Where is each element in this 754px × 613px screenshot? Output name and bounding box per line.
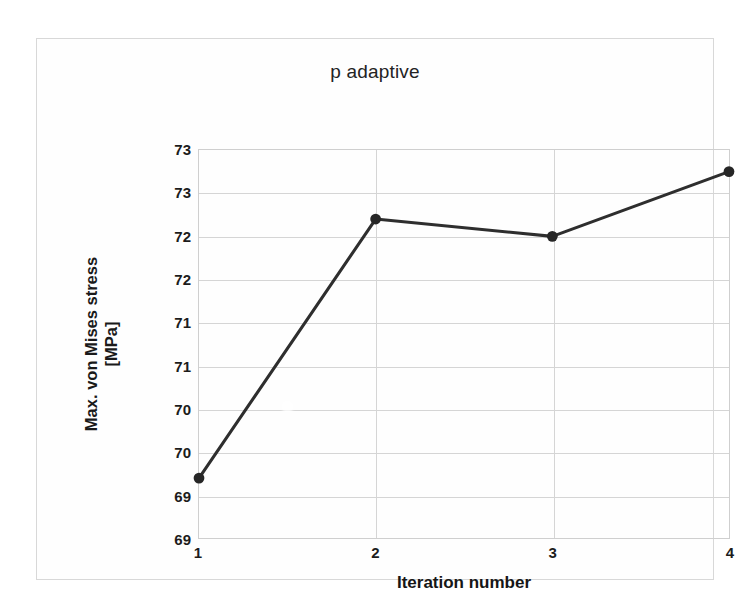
x-axis-tick-label: 4 xyxy=(726,544,734,561)
y-axis-tick-label: 71 xyxy=(174,357,191,374)
y-axis-tick-label: 72 xyxy=(174,271,191,288)
y-axis-tick-label: 73 xyxy=(174,141,191,158)
data-point-marker xyxy=(724,166,735,177)
x-axis-tick-labels: 1234 xyxy=(198,544,730,570)
chart-title: p adaptive xyxy=(37,61,713,83)
figure-frame: p adaptive Max. von Mises stress [MPa] 7… xyxy=(36,38,714,580)
y-axis-tick-label: 69 xyxy=(174,487,191,504)
y-axis-tick-label: 73 xyxy=(174,184,191,201)
x-axis-title: Iteration number xyxy=(198,573,730,593)
data-point-marker xyxy=(547,231,558,242)
x-axis-tick-label: 2 xyxy=(371,544,379,561)
plot-area xyxy=(198,149,730,539)
data-point-marker xyxy=(194,473,205,484)
data-series xyxy=(199,150,729,539)
y-axis-tick-label: 71 xyxy=(174,314,191,331)
series-line xyxy=(199,172,729,479)
y-axis-tick-label: 72 xyxy=(174,227,191,244)
data-point-marker xyxy=(370,214,381,225)
x-axis-tick-label: 3 xyxy=(549,544,557,561)
y-axis-tick-labels: 73737272717170706969 xyxy=(149,149,191,539)
y-axis-title: Max. von Mises stress [MPa] xyxy=(78,184,124,504)
y-axis-title-line-1: Max. von Mises stress xyxy=(81,257,101,431)
x-axis-tick-label: 1 xyxy=(194,544,202,561)
y-axis-tick-label: 70 xyxy=(174,401,191,418)
y-axis-title-line-2: [MPa] xyxy=(101,322,121,367)
y-axis-tick-label: 69 xyxy=(174,531,191,548)
y-axis-tick-label: 70 xyxy=(174,444,191,461)
